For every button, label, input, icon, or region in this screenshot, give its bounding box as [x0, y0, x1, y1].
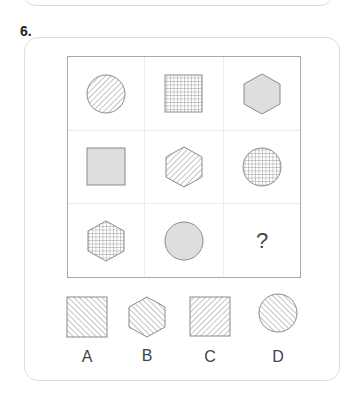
grid-cell-1-3: [224, 57, 300, 131]
grid-cell-1-1: [68, 57, 145, 131]
hatched-hexagon-icon: [163, 145, 205, 189]
grid-cell-2-2: [145, 131, 224, 204]
hatched-hexagon-icon: [126, 295, 168, 339]
grid-cell-missing: ?: [224, 204, 300, 277]
option-d-label: D: [272, 348, 284, 366]
grid-cell-2-3: [224, 131, 300, 204]
option-a[interactable]: A: [66, 296, 108, 366]
missing-question-mark: ?: [256, 228, 268, 254]
gray-square-icon: [85, 147, 127, 187]
hatched-circle-icon: [257, 292, 299, 334]
option-a-label: A: [82, 348, 93, 366]
crosshatch-square-icon: [163, 74, 205, 114]
option-b-label: B: [142, 347, 153, 365]
grid-cell-2-1: [68, 131, 145, 204]
previous-question-card: [22, 0, 334, 6]
option-c-label: C: [204, 348, 216, 366]
crosshatch-circle-icon: [241, 146, 283, 188]
puzzle-grid: ?: [67, 56, 301, 278]
hatched-circle-icon: [85, 73, 127, 115]
grid-cell-3-1: [68, 204, 145, 277]
grid-cell-1-2: [145, 57, 224, 131]
gray-circle-icon: [163, 220, 205, 262]
option-b[interactable]: B: [126, 295, 168, 365]
question-number: 6.: [20, 23, 32, 39]
option-d[interactable]: D: [257, 292, 299, 366]
crosshatch-hexagon-icon: [85, 219, 127, 263]
hatched-square-icon: [189, 296, 231, 338]
hatched-square-icon: [66, 296, 108, 338]
grid-cell-3-2: [145, 204, 224, 277]
gray-hexagon-icon: [241, 72, 283, 116]
option-c[interactable]: C: [189, 296, 231, 366]
